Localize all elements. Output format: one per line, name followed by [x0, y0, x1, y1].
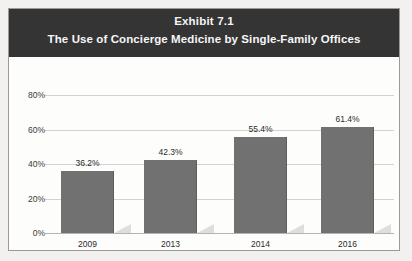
- chart-frame: Exhibit 7.1 The Use of Concierge Medicin…: [8, 8, 400, 251]
- bar-shadow: [114, 224, 131, 233]
- y-axis-tick-label: 80%: [15, 90, 45, 100]
- x-axis-tick-label: 2016: [309, 239, 386, 249]
- x-axis-baseline: [44, 233, 394, 234]
- chart-header-band: Exhibit 7.1 The Use of Concierge Medicin…: [9, 9, 399, 57]
- bar-shadow: [287, 224, 304, 233]
- bar-shadow: [197, 224, 214, 233]
- bar[interactable]: [321, 127, 374, 233]
- plot-area: 0%20%40%60%80% 36.2%42.3%55.4%61.4% 2009…: [9, 57, 399, 251]
- x-axis-tick-label: 2014: [222, 239, 299, 249]
- chart-title: Exhibit 7.1: [9, 13, 399, 30]
- bar-value-label: 55.4%: [224, 124, 297, 134]
- bar[interactable]: [61, 171, 114, 233]
- chart-subtitle: The Use of Concierge Medicine by Single-…: [9, 30, 399, 48]
- bar[interactable]: [144, 160, 197, 233]
- y-axis-tick-label: 20%: [15, 194, 45, 204]
- bar-shadow: [374, 224, 391, 233]
- x-axis-tick-label: 2013: [132, 239, 209, 249]
- bar-value-label: 61.4%: [311, 114, 384, 124]
- y-axis-tick-label: 0%: [15, 228, 45, 238]
- bar[interactable]: [234, 137, 287, 233]
- y-axis-tick-label: 40%: [15, 159, 45, 169]
- bar-value-label: 36.2%: [51, 158, 124, 168]
- x-axis-tick-label: 2009: [49, 239, 126, 249]
- y-axis-tick-label: 60%: [15, 125, 45, 135]
- bar-value-label: 42.3%: [134, 147, 207, 157]
- gridline: [44, 95, 394, 96]
